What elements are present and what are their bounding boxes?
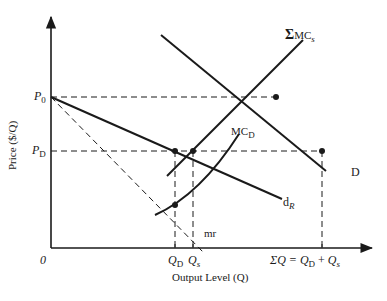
sum-mc-curve bbox=[167, 40, 303, 176]
mc-d-sub: D bbox=[248, 130, 255, 140]
y-axis-label: Price ($/Q) bbox=[6, 121, 18, 170]
qs-sub: s bbox=[197, 259, 201, 269]
qd-label: QD bbox=[168, 254, 183, 269]
qd-main: Q bbox=[168, 253, 177, 267]
residual-demand-label: dR bbox=[283, 196, 295, 211]
origin-label: 0 bbox=[40, 254, 46, 266]
qd-sub: D bbox=[177, 259, 184, 269]
sum-q-plus: + bbox=[315, 253, 328, 267]
mr-mc-intersection-point bbox=[172, 202, 178, 208]
mc-d-main: MC bbox=[231, 125, 248, 137]
pd-label: PD bbox=[32, 144, 46, 159]
mr-curve bbox=[51, 97, 204, 253]
sum-q-b-main: Q bbox=[328, 253, 337, 267]
pd-sub: D bbox=[39, 149, 46, 159]
qs-main: Q bbox=[188, 253, 197, 267]
sum-mc-main: MC bbox=[294, 29, 311, 41]
fringe-supply-point bbox=[190, 148, 196, 154]
demand-at-pd-point bbox=[319, 148, 325, 154]
mr-label: mr bbox=[204, 228, 216, 239]
dominant-price-point bbox=[172, 148, 178, 154]
p0-sub: 0 bbox=[41, 95, 46, 105]
sum-q-a-main: Q bbox=[300, 253, 309, 267]
qs-label: Qs bbox=[188, 254, 200, 269]
sum-q-label: ΣQ = QD + Qs bbox=[270, 254, 340, 269]
sum-mc-label: ΣMCs bbox=[285, 28, 315, 44]
p0-label: P0 bbox=[34, 90, 46, 105]
residual-demand-curve bbox=[51, 97, 282, 199]
demand-label: D bbox=[351, 166, 360, 178]
sum-mc-sub: s bbox=[311, 34, 315, 44]
mc-d-label: MCD bbox=[231, 125, 255, 140]
market-equilibrium-point bbox=[273, 94, 279, 100]
sum-q-prefix: ΣQ = bbox=[270, 253, 300, 267]
residual-demand-sub: R bbox=[289, 201, 295, 211]
sum-mc-sigma: Σ bbox=[285, 27, 294, 42]
x-axis-label: Output Level (Q) bbox=[172, 272, 248, 283]
sum-q-b-sub: s bbox=[337, 259, 341, 269]
